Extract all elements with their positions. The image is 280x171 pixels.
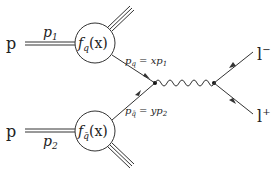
lepton-plus-line — [214, 83, 253, 114]
quark-bottom-arrow-icon — [135, 90, 141, 96]
quark-top-momentum: pq = xp1 — [125, 55, 167, 68]
proton-bottom-label: p — [6, 122, 16, 141]
photon-wavy-line — [155, 80, 214, 86]
proton-bottom-momentum: p2 — [43, 133, 58, 151]
proton-bottom-remnant-lines — [108, 143, 134, 168]
quark-bottom-momentum: pq̄ = yp2 — [125, 105, 168, 118]
proton-top-double-line — [25, 42, 75, 45]
quark-top-arrow-icon — [143, 73, 150, 79]
lepton-minus-label: l− — [257, 44, 271, 64]
proton-top-label: p — [6, 34, 16, 53]
lepton-minus-line — [214, 52, 253, 83]
drell-yan-feynman-diagram: p p1 fq(x) pq = xp1 p p2 fq̄(x) pq̄ = yp… — [0, 0, 280, 171]
proton-top-remnant-lines — [108, 6, 134, 31]
lepton-minus-arrow-icon — [229, 62, 236, 68]
pdf-bottom-label: fq̄(x) — [77, 123, 108, 141]
lepton-plus-label: l+ — [257, 106, 271, 126]
proton-top-momentum: p1 — [43, 24, 58, 42]
pdf-top-label: fq(x) — [77, 35, 108, 53]
lepton-plus-arrow-icon — [229, 98, 236, 104]
proton-bottom-double-line — [25, 129, 75, 132]
